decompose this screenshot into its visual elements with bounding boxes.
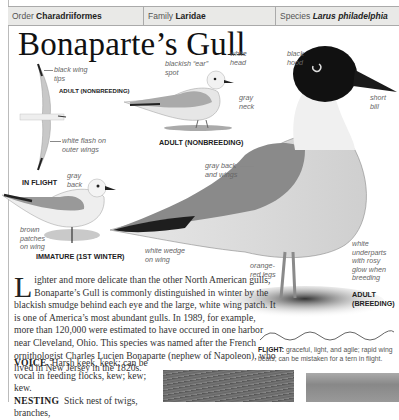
label-white-wedge: white wedgeon wing	[145, 247, 185, 264]
label-gray-back-immature: grayback	[67, 172, 82, 189]
label-white-flash: white flash onouter wings	[62, 137, 106, 154]
habitat-photo	[163, 370, 294, 402]
flight-description: FLIGHT: graceful, light, and agile; rapi…	[258, 345, 398, 363]
adult-breeding-caption: ADULT(BREEDING)	[352, 290, 395, 308]
order-cell: Order Charadriiformes	[8, 7, 144, 25]
flight-pattern-wave	[258, 328, 396, 344]
order-label: Order	[12, 11, 34, 21]
family-value: Laridae	[175, 11, 205, 21]
leader-line	[240, 166, 254, 167]
family-cell: Family Laridae	[144, 7, 276, 25]
leader-line	[44, 70, 53, 71]
species-label: Species	[280, 11, 310, 21]
voice-entry: VOICE Harsh keek, keek; can be vocal in …	[14, 357, 156, 395]
order-value: Charadriiformes	[36, 11, 102, 21]
egg-photo	[306, 373, 399, 402]
species-cell: Species Larus philadelphia	[276, 7, 399, 25]
immature-illustration	[0, 175, 120, 245]
label-gray-back-wings: gray backand wings	[205, 162, 237, 179]
label-black-wing-tips: black wingtips	[54, 66, 88, 83]
flight-label: FLIGHT:	[258, 346, 284, 353]
label-brown-patches: brownpatcheson wing	[20, 226, 45, 252]
species-value: Larus philadelphia	[313, 11, 388, 21]
voice-label: VOICE	[14, 357, 47, 368]
label-black-hood: blackhood	[287, 50, 304, 67]
label-short-bill: shortbill	[370, 94, 386, 111]
nesting-entry: NESTING Stick nest of twigs, branches,	[14, 395, 156, 420]
nesting-label: NESTING	[14, 395, 59, 406]
taxonomy-header: Order Charadriiformes Family Laridae Spe…	[8, 6, 399, 26]
drop-cap: L	[14, 275, 32, 299]
family-label: Family	[148, 11, 173, 21]
label-white-underparts: whiteunderpartswith rosyglow whenbreedin…	[352, 240, 386, 283]
leader-line	[50, 141, 61, 142]
voice-nesting-section: VOICE Harsh keek, keek; can be vocal in …	[14, 357, 156, 420]
